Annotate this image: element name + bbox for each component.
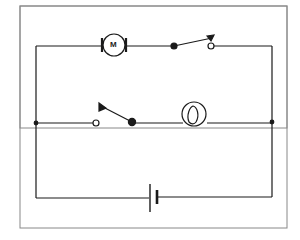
circuit-diagram: M [0,0,300,240]
junction-right [270,120,274,124]
battery-icon [150,184,157,212]
lamp-icon [182,102,206,126]
junction-left [34,121,38,125]
circuit-svg [0,0,300,240]
motor-label: M [110,40,117,49]
frame-top [20,6,287,128]
diagram-frame [20,6,287,228]
switch-middle-icon [93,103,136,126]
switch-top-icon [171,35,214,49]
